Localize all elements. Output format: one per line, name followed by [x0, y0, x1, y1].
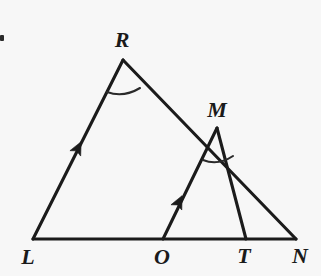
geometry-figure-canvas [0, 0, 321, 276]
vertex-label-O: O [154, 246, 170, 268]
vertex-label-T: T [237, 245, 250, 267]
vertex-label-M: M [207, 99, 227, 121]
segment-OM [163, 128, 217, 239]
scan-edge-mark [0, 35, 4, 41]
geometry-figure: R M L O T N [0, 0, 321, 276]
angle-arc-R [107, 88, 140, 94]
vertex-label-R: R [115, 29, 130, 51]
arrow-mark-LR [70, 139, 87, 156]
vertex-label-L: L [21, 246, 34, 268]
vertex-label-N: N [292, 245, 308, 267]
segment-RN [123, 60, 296, 239]
